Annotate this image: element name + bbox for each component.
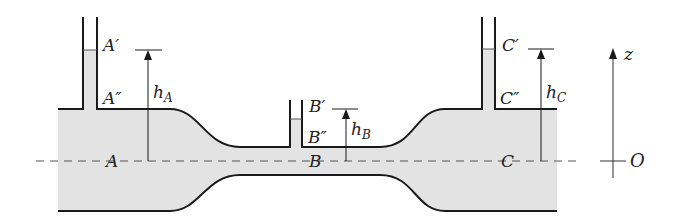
label-c-prime: C′ [502, 35, 519, 55]
label-b-dprime: B″ [307, 127, 327, 147]
label-a-dprime: A″ [101, 88, 122, 108]
label-a: A [104, 151, 118, 171]
label-hc: hC [546, 82, 566, 105]
label-hb: hB [351, 119, 371, 142]
label-a-prime: A′ [101, 35, 119, 55]
label-ha: hA [153, 82, 173, 105]
ha-arrow-head-icon [144, 50, 152, 60]
label-c-dprime: C″ [500, 88, 520, 108]
z-axis-arrow-icon [609, 48, 617, 59]
venturi-diagram: A′ A″ A hA B′ B″ B hB C′ C″ C hC z O [0, 0, 678, 217]
label-b-prime: B′ [308, 96, 325, 116]
hc-arrow-head-icon [537, 49, 545, 59]
hb-arrow-head-icon [342, 109, 350, 119]
label-origin: O [630, 150, 645, 171]
label-z-axis: z [623, 44, 634, 64]
label-c: C [501, 151, 514, 171]
label-b: B [308, 151, 322, 171]
